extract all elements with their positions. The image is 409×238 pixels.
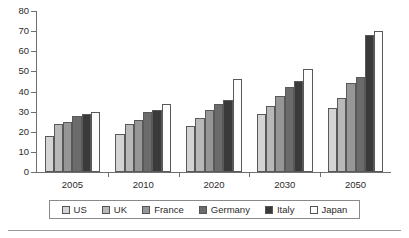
- y-axis-tick-label: 20: [0, 127, 29, 137]
- x-axis-tick: [108, 172, 109, 177]
- y-axis-tick-label: 60: [0, 46, 29, 56]
- y-axis-tick-label-text: 50: [1, 66, 29, 76]
- legend-swatch-icon: [102, 206, 110, 214]
- y-axis-tick-label: 30: [0, 107, 29, 117]
- x-axis-line: [36, 172, 391, 173]
- x-axis-tick: [320, 172, 321, 177]
- x-axis-tick: [179, 172, 180, 177]
- bar-france-2030: [275, 96, 284, 172]
- legend-label: US: [74, 205, 87, 215]
- legend-label: Germany: [211, 205, 250, 215]
- y-axis-tick-label: 0: [0, 167, 29, 177]
- bar-group: [328, 11, 384, 172]
- bar-italy-2030: [294, 81, 303, 172]
- x-axis-labels: 20052010202020302050: [37, 178, 391, 192]
- bar-germany-2005: [72, 116, 81, 172]
- plot-area: 01020304050607080 20052010202020302050: [0, 0, 409, 196]
- bar-germany-2030: [285, 87, 294, 172]
- bar-us-2010: [115, 134, 124, 172]
- y-axis-tick-label: 70: [0, 26, 29, 36]
- y-axis-tick-label-text: 80: [1, 6, 29, 16]
- legend-swatch-icon: [62, 206, 70, 214]
- x-axis-label-2005: 2005: [37, 178, 108, 191]
- legend-label: France: [154, 205, 184, 215]
- bar-germany-2050: [356, 77, 365, 172]
- bar-japan-2030: [303, 69, 312, 172]
- bar-france-2020: [205, 110, 214, 172]
- x-axis-label-2050: 2050: [320, 178, 391, 191]
- bar-italy-2020: [223, 100, 232, 172]
- y-axis-tick-label-text: 40: [1, 87, 29, 97]
- y-axis-tick-label-text: 0: [1, 167, 29, 177]
- x-axis-label-2030: 2030: [249, 178, 320, 191]
- legend-label: Italy: [277, 205, 294, 215]
- bar-us-2050: [328, 108, 337, 172]
- y-axis-tick-label-text: 70: [1, 26, 29, 36]
- bar-italy-2010: [152, 110, 161, 172]
- y-axis-tick-label: 80: [0, 6, 29, 16]
- legend-item-uk[interactable]: UK: [102, 205, 127, 215]
- x-axis-label-2020: 2020: [179, 178, 250, 191]
- bar-uk-2020: [195, 118, 204, 172]
- y-axis-tick-label: 50: [0, 66, 29, 76]
- y-axis-tick-label-text: 60: [1, 46, 29, 56]
- bar-uk-2010: [125, 124, 134, 172]
- bar-groups: [37, 11, 391, 172]
- y-axis-tick-label-text: 10: [1, 147, 29, 157]
- legend-item-italy[interactable]: Italy: [265, 205, 294, 215]
- y-axis-tick-label-text: 20: [1, 127, 29, 137]
- bar-uk-2005: [54, 124, 63, 172]
- legend-swatch-icon: [142, 206, 150, 214]
- chart-legend: USUKFranceGermanyItalyJapan: [49, 200, 360, 219]
- bar-japan-2050: [374, 31, 383, 172]
- bar-france-2010: [134, 120, 143, 172]
- bar-germany-2010: [143, 112, 152, 172]
- legend-item-us[interactable]: US: [62, 205, 87, 215]
- legend-swatch-icon: [310, 206, 318, 214]
- y-axis-tick-label-text: 30: [1, 107, 29, 117]
- bar-japan-2005: [91, 112, 100, 172]
- legend-swatch-icon: [265, 206, 273, 214]
- bar-us-2005: [45, 136, 54, 172]
- legend-item-japan[interactable]: Japan: [310, 205, 348, 215]
- bar-us-2030: [257, 114, 266, 172]
- bar-group: [186, 11, 242, 172]
- bar-germany-2020: [214, 104, 223, 172]
- bar-italy-2005: [82, 114, 91, 172]
- y-axis-tick-label: 40: [0, 87, 29, 97]
- x-axis-label-2010: 2010: [108, 178, 179, 191]
- bar-uk-2050: [337, 98, 346, 172]
- y-axis-tick: [31, 172, 37, 173]
- bar-japan-2010: [162, 104, 171, 172]
- bar-us-2020: [186, 126, 195, 172]
- bar-chart-figure: 01020304050607080 20052010202020302050 U…: [0, 0, 409, 238]
- legend-item-france[interactable]: France: [142, 205, 184, 215]
- bar-group: [115, 11, 171, 172]
- bar-group: [257, 11, 313, 172]
- bar-france-2050: [346, 83, 355, 172]
- legend-swatch-icon: [199, 206, 207, 214]
- legend-label: UK: [114, 205, 127, 215]
- legend-item-germany[interactable]: Germany: [199, 205, 250, 215]
- x-axis-tick: [249, 172, 250, 177]
- bar-japan-2020: [233, 79, 242, 172]
- bar-italy-2050: [365, 35, 374, 172]
- bar-france-2005: [63, 122, 72, 172]
- footer-divider: [8, 230, 401, 231]
- bar-uk-2030: [266, 106, 275, 172]
- bar-group: [45, 11, 101, 172]
- y-axis-tick-label: 10: [0, 147, 29, 157]
- legend-label: Japan: [322, 205, 348, 215]
